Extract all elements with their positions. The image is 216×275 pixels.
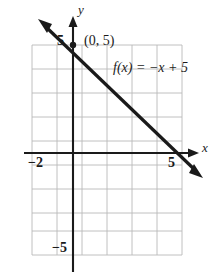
graph-figure: y x 5 −5 −2 5 (0, 5) f(x) = −x + 5	[0, 0, 216, 275]
y-axis-label: y	[78, 2, 84, 18]
x-tick-label-5: 5	[168, 155, 175, 171]
grid-lines	[32, 45, 182, 255]
y-axis-arrow-icon	[69, 16, 78, 27]
x-tick-label-negative-2: −2	[28, 155, 43, 171]
y-tick-label-negative-5: −5	[52, 240, 67, 256]
y-intercept-dot	[70, 42, 76, 48]
y-intercept-point-label: (0, 5)	[84, 33, 114, 49]
x-axis-label: x	[202, 140, 208, 156]
function-equation-label: f(x) = −x + 5	[113, 60, 188, 76]
y-tick-label-5: 5	[57, 33, 64, 49]
x-axis-arrow-icon	[188, 149, 199, 158]
